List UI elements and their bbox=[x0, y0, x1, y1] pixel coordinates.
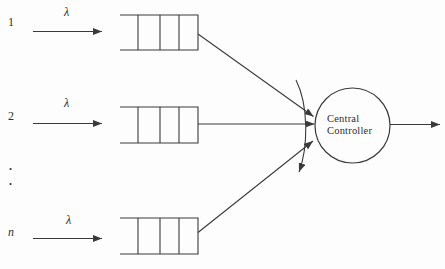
controller-label-line1: Central bbox=[327, 113, 359, 124]
diagram-canvas: 1 λ 2 λ . . n λ Central Controller bbox=[0, 0, 445, 269]
queue-row-label-n: n bbox=[8, 225, 14, 239]
arrival-rate-label-2: λ bbox=[63, 96, 69, 110]
ellipsis-dot: . bbox=[9, 159, 12, 173]
queue-row-label-2: 2 bbox=[8, 109, 14, 123]
arrival-rate-label-1: λ bbox=[63, 5, 69, 19]
queueing-system-diagram: 1 λ 2 λ . . n λ Central Controller bbox=[0, 0, 445, 269]
canvas-background bbox=[0, 0, 445, 269]
queue-row-label-1: 1 bbox=[8, 15, 14, 29]
ellipsis-dot: . bbox=[9, 174, 12, 188]
arrival-rate-label-n: λ bbox=[65, 213, 71, 227]
controller-label-line2: Controller bbox=[327, 125, 372, 136]
